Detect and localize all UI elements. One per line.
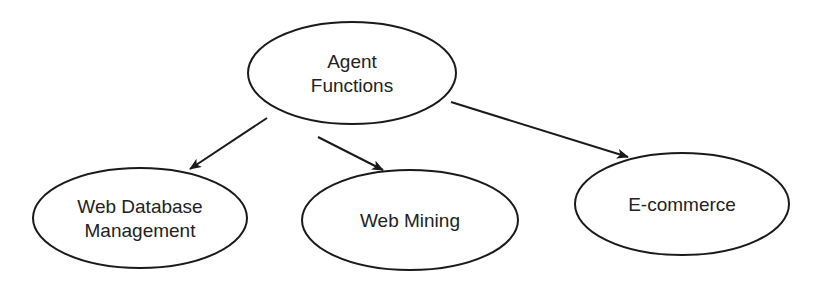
edge-agent-to-webmining [318,137,383,170]
node-label-line: Management [85,220,197,241]
node-label-line: Functions [311,75,393,96]
node-label-line: Web Database [77,196,202,217]
node-label-line: Web Mining [360,210,460,231]
node-web-database-management: Web Database Management [33,168,247,268]
edge-agent-to-ecommerce [451,102,628,157]
node-ellipse [33,168,247,268]
diagram-canvas: Agent Functions Web Database Management … [0,0,820,285]
node-e-commerce: E-commerce [575,153,789,255]
node-label-line: Agent [327,51,377,72]
node-agent-functions: Agent Functions [248,22,456,124]
node-web-mining: Web Mining [302,170,518,270]
node-label-line: E-commerce [628,194,736,215]
node-ellipse [248,22,456,124]
edge-agent-to-webdb [190,118,267,169]
